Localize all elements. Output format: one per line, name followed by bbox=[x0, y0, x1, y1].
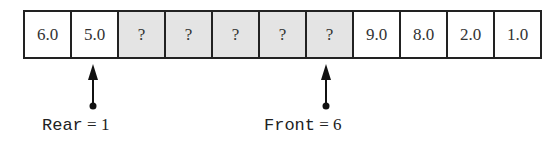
array-cell-6: ? bbox=[307, 12, 354, 57]
array-cell-10: 1.0 bbox=[495, 12, 540, 57]
array-cell-2: ? bbox=[119, 12, 166, 57]
rear-label: Rear = 1 bbox=[42, 115, 109, 135]
rear-name: Rear bbox=[42, 116, 83, 135]
queue-array: 6.0 5.0 ? ? ? ? ? 9.0 8.0 2.0 1.0 bbox=[23, 10, 542, 59]
front-label: Front = 6 bbox=[264, 115, 342, 135]
array-cell-4: ? bbox=[213, 12, 260, 57]
array-cell-3: ? bbox=[166, 12, 213, 57]
array-cell-8: 8.0 bbox=[401, 12, 448, 57]
array-cell-9: 2.0 bbox=[448, 12, 495, 57]
array-cell-0: 6.0 bbox=[25, 12, 72, 57]
array-cell-5: ? bbox=[260, 12, 307, 57]
front-eq: = 6 bbox=[315, 115, 342, 134]
front-name: Front bbox=[264, 116, 315, 135]
rear-eq: = 1 bbox=[83, 115, 110, 134]
array-cell-1: 5.0 bbox=[72, 12, 119, 57]
array-cell-7: 9.0 bbox=[354, 12, 401, 57]
